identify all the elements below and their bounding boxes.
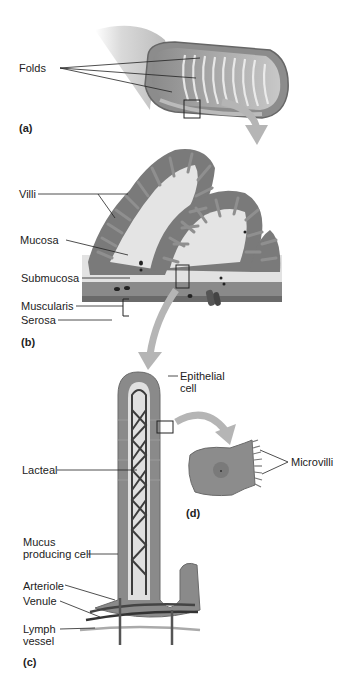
- label-submucosa: Submucosa: [21, 272, 79, 284]
- label-mucus-2: producing cell: [23, 548, 91, 560]
- panel-d-cell: [189, 440, 262, 496]
- arrow-c-d: [176, 415, 225, 430]
- panel-label-d: (d): [186, 507, 200, 519]
- panel-a-tube: [95, 26, 288, 118]
- panel-c-villus: [80, 372, 200, 645]
- panel-label-b: (b): [21, 336, 35, 348]
- label-mucosa: Mucosa: [20, 234, 59, 246]
- label-muscularis: Muscularis: [21, 300, 74, 312]
- label-folds: Folds: [19, 62, 46, 74]
- label-lacteal: Lacteal: [22, 464, 57, 476]
- label-epithelial-2: cell: [180, 382, 197, 394]
- intestine-diagram: [0, 0, 350, 678]
- label-arteriole: Arteriole: [23, 580, 64, 592]
- microvilli-pointer-lines: [260, 450, 288, 474]
- panel-label-a: (a): [19, 122, 32, 134]
- label-serosa: Serosa: [21, 314, 56, 326]
- label-lymph-2: vessel: [23, 635, 54, 647]
- label-microvilli: Microvilli: [291, 456, 333, 468]
- label-lymph-1: Lymph: [23, 623, 56, 635]
- label-epithelial-1: Epithelial: [180, 370, 225, 382]
- label-villi: Villi: [19, 188, 36, 200]
- panel-label-c: (c): [23, 656, 36, 668]
- label-venule: Venule: [23, 595, 57, 607]
- label-mucus-1: Mucus: [23, 536, 55, 548]
- panel-b-villi: [82, 149, 282, 306]
